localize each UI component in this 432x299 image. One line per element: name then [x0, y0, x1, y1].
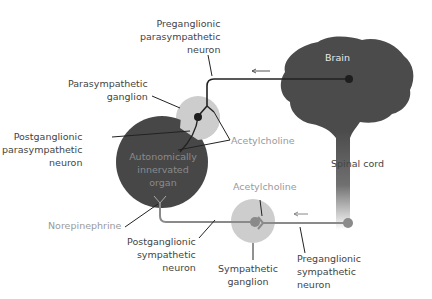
label-brain: Brain [325, 51, 350, 64]
label-norepinephrine: Norepinephrine [48, 219, 121, 232]
label-line: innervated [116, 163, 210, 176]
spinal-cord [336, 130, 350, 230]
label-line: ganglion [68, 90, 148, 103]
label-line: Preganglionic [297, 252, 361, 265]
label-line: Preganglionic [140, 17, 220, 30]
label-spinal-cord: Spinal cord [331, 157, 384, 170]
arrow-left-icon-2 [294, 212, 308, 216]
label-line: Autonomically [116, 150, 210, 163]
label-line: neuron [2, 156, 82, 169]
label-acetylcholine-bottom: Acetylcholine [233, 180, 297, 193]
label-postganglionic-sympathetic: Postganglionic sympathetic neuron [127, 235, 196, 274]
label-line: Sympathetic [218, 262, 278, 275]
label-line: neuron [127, 261, 196, 274]
label-line: Postganglionic [127, 235, 196, 248]
label-line: organ [116, 176, 210, 189]
label-line: Parasympathetic [68, 77, 148, 90]
label-sympathetic-ganglion: Sympathetic ganglion [218, 262, 278, 288]
label-postganglionic-parasympathetic: Postganglionic parasympathetic neuron [2, 130, 82, 169]
label-preganglionic-parasympathetic: Preganglionic parasympathetic neuron [140, 17, 220, 56]
label-line: parasympathetic [2, 143, 82, 156]
brain-neuron-dot [345, 75, 353, 83]
label-line: Postganglionic [2, 130, 82, 143]
label-line: sympathetic [127, 248, 196, 261]
label-acetylcholine-top: Acetylcholine [231, 134, 295, 147]
label-line: neuron [297, 278, 361, 291]
label-preganglionic-sympathetic: Preganglionic sympathetic neuron [297, 252, 361, 291]
label-organ: Autonomically innervated organ [116, 150, 210, 189]
label-parasympathetic-ganglion: Parasympathetic ganglion [68, 77, 148, 103]
label-line: parasympathetic [140, 30, 220, 43]
label-line: neuron [140, 43, 220, 56]
label-line: sympathetic [297, 265, 361, 278]
arrow-left-icon [252, 69, 270, 73]
label-line: ganglion [218, 275, 278, 288]
spinal-neuron-dot [343, 218, 353, 228]
